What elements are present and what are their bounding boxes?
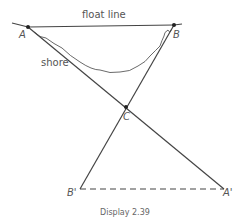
label-a: A <box>19 29 26 40</box>
float-line-label: float line <box>82 9 126 20</box>
label-c: C <box>123 111 130 122</box>
point-b <box>172 23 176 27</box>
caption: Display 2.39 <box>100 208 150 217</box>
label-aprime: A' <box>223 187 233 198</box>
label-bprime: B' <box>67 187 77 198</box>
shore-extension-left <box>12 23 28 27</box>
point-a <box>26 25 30 29</box>
label-b: B <box>173 29 180 40</box>
float-line <box>28 25 174 27</box>
point-c <box>124 105 128 109</box>
shore-label: shore <box>41 57 69 68</box>
